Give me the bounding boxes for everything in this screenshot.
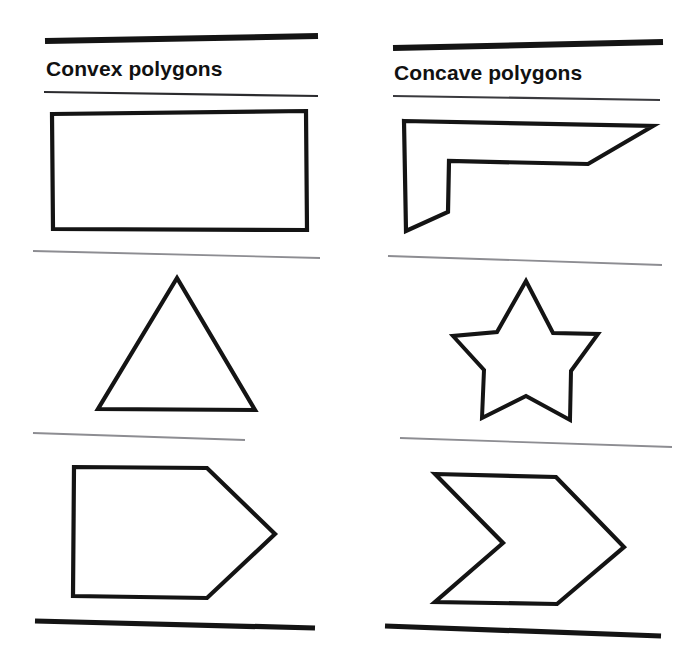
shape-l-hexagon [350, 0, 698, 250]
shape-rectangle [0, 0, 350, 250]
rectangle-outline [52, 111, 307, 230]
triangle-outline [98, 278, 255, 410]
worksheet-page: Convex polygons [0, 0, 698, 668]
pentagon-outline [73, 467, 275, 598]
shape-star [350, 260, 698, 435]
bottom-rule-left [0, 608, 350, 648]
shape-chevron [350, 452, 698, 627]
bottom-rule-right [350, 612, 698, 652]
l-hexagon-outline [404, 121, 653, 231]
star-outline [453, 281, 598, 420]
shape-pentagon [0, 445, 350, 620]
column-concave: Concave polygons [350, 0, 698, 668]
shape-triangle [0, 260, 350, 430]
chevron-outline [435, 474, 624, 604]
column-convex: Convex polygons [0, 0, 350, 668]
